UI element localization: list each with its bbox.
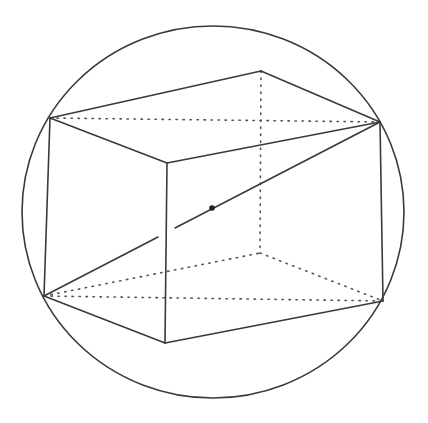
hidden-edge-E-G [44, 296, 383, 301]
hidden-edge-H-G [260, 253, 383, 301]
hidden-edge-E-H [44, 253, 260, 296]
edge-F-G [165, 301, 383, 343]
edge-D-C [167, 122, 380, 163]
diagonal-segment-upper [175, 122, 380, 228]
hidden-edge-B-H [260, 71, 261, 253]
diagonal-segment-lower [44, 237, 158, 296]
hidden-edge-A-C [50, 118, 380, 122]
cuboid-sphere-diagram [0, 0, 428, 423]
hidden-edges [44, 71, 383, 301]
edge-D-F [165, 163, 167, 343]
edge-A-D [50, 118, 167, 163]
edge-E-F [44, 296, 165, 343]
edge-A-E [44, 118, 50, 296]
sphere-center-point [209, 205, 215, 211]
edge-C-G [380, 122, 383, 301]
